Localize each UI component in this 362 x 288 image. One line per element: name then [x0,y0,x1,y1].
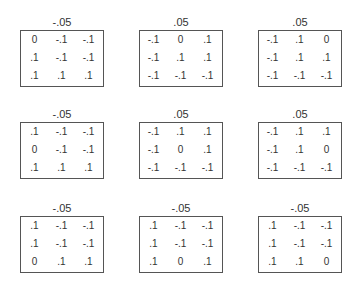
grid-cell: .1 [194,141,221,159]
value-grid: -.1 0 .1 -.1 .1 .1 -.1 -.1 -.1 [139,30,223,87]
grid-cell: -.1 [286,217,313,235]
grid-cell: .1 [140,235,167,253]
grid-cell: -.1 [140,31,167,49]
grid-cell: -.1 [48,235,75,253]
grid-cell: .1 [140,253,167,271]
value-grid: -.1 .1 .1 -.1 0 .1 -.1 -.1 -.1 [139,122,223,179]
grid-cell: .1 [259,217,286,235]
value-grid: .1 -.1 -.1 .1 -.1 -.1 .1 0 .1 [139,216,223,273]
grid-cell: 0 [167,31,194,49]
grid-cell: -.1 [140,67,167,85]
grid-cell: -.1 [313,217,340,235]
grid-cell: -.1 [259,31,286,49]
panel-title: -.05 [258,201,342,215]
grid-cell: -.1 [48,49,75,67]
grid-cell: -.1 [194,159,221,177]
grid-cell: -.1 [259,141,286,159]
grid-cell: -.1 [313,67,340,85]
grid-cell: .1 [194,123,221,141]
grid-cell: .1 [75,253,102,271]
grid-cell: .1 [259,235,286,253]
panel-title: -.05 [20,15,104,29]
grid-cell: -.1 [259,123,286,141]
grid-cell: -.1 [140,123,167,141]
grid-cell: -.1 [259,159,286,177]
grid-cell: 0 [167,253,194,271]
grid-cell: .1 [140,217,167,235]
panel-title: -.05 [20,201,104,215]
panel-title: .05 [258,107,342,121]
grid-cell: -.1 [259,67,286,85]
grid-cell: -.1 [194,217,221,235]
grid-cell: .1 [21,67,48,85]
grid-cell: -.1 [286,67,313,85]
grid-cell: -.1 [194,235,221,253]
grid-cell: -.1 [75,235,102,253]
grid-cell: -.1 [75,217,102,235]
value-grid: 0 -.1 -.1 .1 -.1 -.1 .1 .1 .1 [20,30,104,87]
grid-cell: 0 [313,141,340,159]
panel-title: .05 [258,15,342,29]
grid-cell: -.1 [48,141,75,159]
grid-cell: -.1 [259,49,286,67]
grid-cell: .1 [21,159,48,177]
grid-cell: .1 [286,49,313,67]
grid-cell: -.1 [286,235,313,253]
grid-cell: .1 [286,141,313,159]
grid-cell: .1 [259,253,286,271]
grid-cell: -.1 [167,159,194,177]
grid-cell: -.1 [313,159,340,177]
grid-cell: -.1 [167,67,194,85]
panel-title: -.05 [20,107,104,121]
grid-cell: .1 [48,159,75,177]
grid-cell: -.1 [48,31,75,49]
value-grid: -.1 .1 .1 -.1 .1 0 -.1 -.1 -.1 [258,122,342,179]
grid-cell: -.1 [75,141,102,159]
grid-cell: .1 [21,235,48,253]
value-grid: .1 -.1 -.1 .1 -.1 -.1 0 .1 .1 [20,216,104,273]
grid-cell: 0 [21,31,48,49]
grid-cell: .1 [75,159,102,177]
panel-title: .05 [139,107,223,121]
grid-cell: .1 [167,49,194,67]
grid-cell: .1 [286,253,313,271]
grid-cell: .1 [75,67,102,85]
grid-cell: 0 [167,141,194,159]
grid-cell: .1 [194,49,221,67]
grid-cell: -.1 [167,235,194,253]
grid-cell: .1 [167,123,194,141]
grid-cell: -.1 [48,217,75,235]
grid-cell: -.1 [48,123,75,141]
value-grid: -.1 .1 0 -.1 .1 .1 -.1 -.1 -.1 [258,30,342,87]
grid-cell: -.1 [75,31,102,49]
grid-cell: -.1 [313,235,340,253]
grid-cell: -.1 [75,123,102,141]
grid-cell: .1 [21,49,48,67]
grid-cell: .1 [48,67,75,85]
grid-cell: -.1 [167,217,194,235]
grid-cell: .1 [286,31,313,49]
grid-cell: -.1 [140,49,167,67]
value-grid: .1 -.1 -.1 0 -.1 -.1 .1 .1 .1 [20,122,104,179]
grid-cell: 0 [21,253,48,271]
grid-cell: 0 [21,141,48,159]
grid-cell: .1 [194,31,221,49]
panel-title: .05 [139,15,223,29]
value-grid: .1 -.1 -.1 .1 -.1 -.1 .1 .1 0 [258,216,342,273]
grid-cell: -.1 [194,67,221,85]
grid-cell: -.1 [140,159,167,177]
grid-cell: .1 [194,253,221,271]
grid-cell: .1 [21,123,48,141]
grid-cell: -.1 [286,159,313,177]
grid-cell: 0 [313,253,340,271]
grid-cell: -.1 [75,49,102,67]
grid-cell: .1 [313,49,340,67]
grid-cell: .1 [286,123,313,141]
grid-cell: .1 [48,253,75,271]
panel-title: -.05 [139,201,223,215]
grid-cell: -.1 [140,141,167,159]
grid-cell: 0 [313,31,340,49]
grid-cell: .1 [21,217,48,235]
grid-cell: .1 [313,123,340,141]
